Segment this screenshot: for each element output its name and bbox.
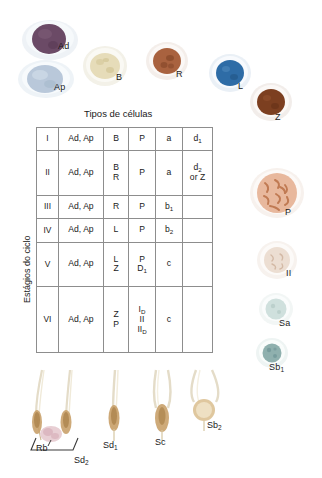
cell-spermatogonia-b: BR (104, 151, 129, 196)
cell-spermatogonia-b: L (104, 219, 129, 242)
table-row: V Ad, Ap LZ PD1 c (37, 242, 213, 287)
cell-illustration-ii (256, 240, 298, 280)
spermatid-label-rb: Rb (36, 443, 48, 453)
cell-spermatids-early: a (156, 151, 183, 196)
cell-spermatids-early: a (156, 128, 183, 151)
cell-stage: IV (37, 219, 59, 242)
cell-spermatogonia-a: Ad, Ap (59, 151, 104, 196)
table-title: Tipos de células (84, 108, 152, 119)
cell-spermatocytes: P (129, 128, 156, 151)
cell-stage: VI (37, 287, 59, 353)
cell-label-r: R (176, 69, 183, 79)
cell-label-ap: Ap (54, 82, 65, 92)
cell-stage: III (37, 195, 59, 218)
cell-spermatogonia-a: Ad, Ap (59, 242, 104, 287)
cell-illustration-z (249, 81, 293, 123)
axis-title-cycle-stages: Estágios do ciclo (22, 235, 32, 303)
cell-spermatids-early: c (156, 242, 183, 287)
cell-spermatocytes: P (129, 151, 156, 196)
cell-label-z: Z (275, 112, 281, 122)
cell-spermatids-early: b2 (156, 219, 183, 242)
spermatid-illustration-sd2 (18, 368, 98, 467)
cell-spermatids-early: c (156, 287, 183, 353)
cell-spermatids-late: d1 (183, 128, 213, 151)
spermatogenic-cycle-figure: Ad Ap B R (0, 0, 322, 478)
cell-spermatids-late (183, 195, 213, 218)
cell-spermatogonia-b: LZ (104, 242, 129, 287)
spermatid-label-sd1: Sd1 (103, 440, 118, 450)
cell-spermatids-late: d2or Z (183, 151, 213, 196)
cell-illustration-l (208, 52, 252, 94)
cell-label-sb1: Sb1 (269, 362, 284, 372)
spermatid-illustration-sd1 (95, 368, 141, 450)
cell-spermatocytes: IDIIIID (129, 287, 156, 353)
cell-types-by-stage-table: I Ad, Ap B P a d1 II Ad, Ap BR P a d2or … (36, 127, 213, 353)
cell-illustration-ap (16, 58, 76, 100)
cell-spermatogonia-a: Ad, Ap (59, 219, 104, 242)
cell-spermatogonia-b: ZP (104, 287, 129, 353)
spermatid-label-sb2: Sb2 (207, 420, 222, 430)
cell-stage: V (37, 242, 59, 287)
cell-label-ii: II (286, 268, 291, 278)
cell-spermatids-late (183, 287, 213, 353)
cell-label-p: P (285, 207, 291, 217)
cell-spermatogonia-b: R (104, 195, 129, 218)
cell-spermatocytes: P (129, 219, 156, 242)
cell-spermatids-early: b1 (156, 195, 183, 218)
cell-spermatids-late (183, 219, 213, 242)
cell-spermatocytes: PD1 (129, 242, 156, 287)
cell-spermatocytes: P (129, 195, 156, 218)
cell-label-b: B (116, 72, 122, 82)
cell-label-sa: Sa (279, 318, 290, 328)
cell-label-l: L (238, 81, 243, 91)
cell-label-ad: Ad (58, 41, 69, 51)
spermatid-label-sd2: Sd2 (74, 455, 89, 465)
cell-stage: I (37, 128, 59, 151)
cell-illustration-p (249, 166, 305, 220)
cell-spermatids-late (183, 242, 213, 287)
cell-stage: II (37, 151, 59, 196)
table-row: IV Ad, Ap L P b2 (37, 219, 213, 242)
cell-illustration-ad (20, 18, 80, 62)
cell-spermatogonia-a: Ad, Ap (59, 128, 104, 151)
table-row: I Ad, Ap B P a d1 (37, 128, 213, 151)
spermatid-illustration-sb2 (178, 368, 232, 442)
table-row: II Ad, Ap BR P a d2or Z (37, 151, 213, 196)
spermatid-label-sc: Sc (155, 437, 166, 447)
cell-spermatogonia-a: Ad, Ap (59, 287, 104, 353)
table-row: III Ad, Ap R P b1 (37, 195, 213, 218)
cell-spermatogonia-b: B (104, 128, 129, 151)
table-row: VI Ad, Ap ZP IDIIIID c (37, 287, 213, 353)
cell-spermatogonia-a: Ad, Ap (59, 195, 104, 218)
